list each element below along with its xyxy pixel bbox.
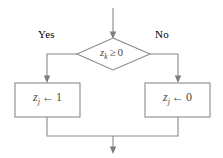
no-branch-label: No <box>155 28 169 40</box>
condition-operator: ≥ <box>108 46 118 58</box>
flowchart-canvas: Yes No <box>0 0 223 158</box>
yes-assign-operator: ← <box>40 90 56 104</box>
no-branch-assignment-text: zj←0 <box>145 90 210 106</box>
merge-connector <box>47 117 178 136</box>
condition-value: 0 <box>118 46 124 58</box>
decision-condition-text: zk≥0 <box>0 46 223 61</box>
exit-arrow <box>110 136 116 154</box>
yes-branch-label: Yes <box>38 28 55 40</box>
no-assign-value: 0 <box>186 90 192 104</box>
no-assign-operator: ← <box>170 90 186 104</box>
yes-assign-value: 1 <box>56 90 62 104</box>
flowchart-diagram: Yes No zk≥0 zj←1 zj←0 <box>0 0 223 158</box>
yes-branch-assignment-text: zj←1 <box>15 90 80 106</box>
entry-arrow <box>110 8 116 39</box>
